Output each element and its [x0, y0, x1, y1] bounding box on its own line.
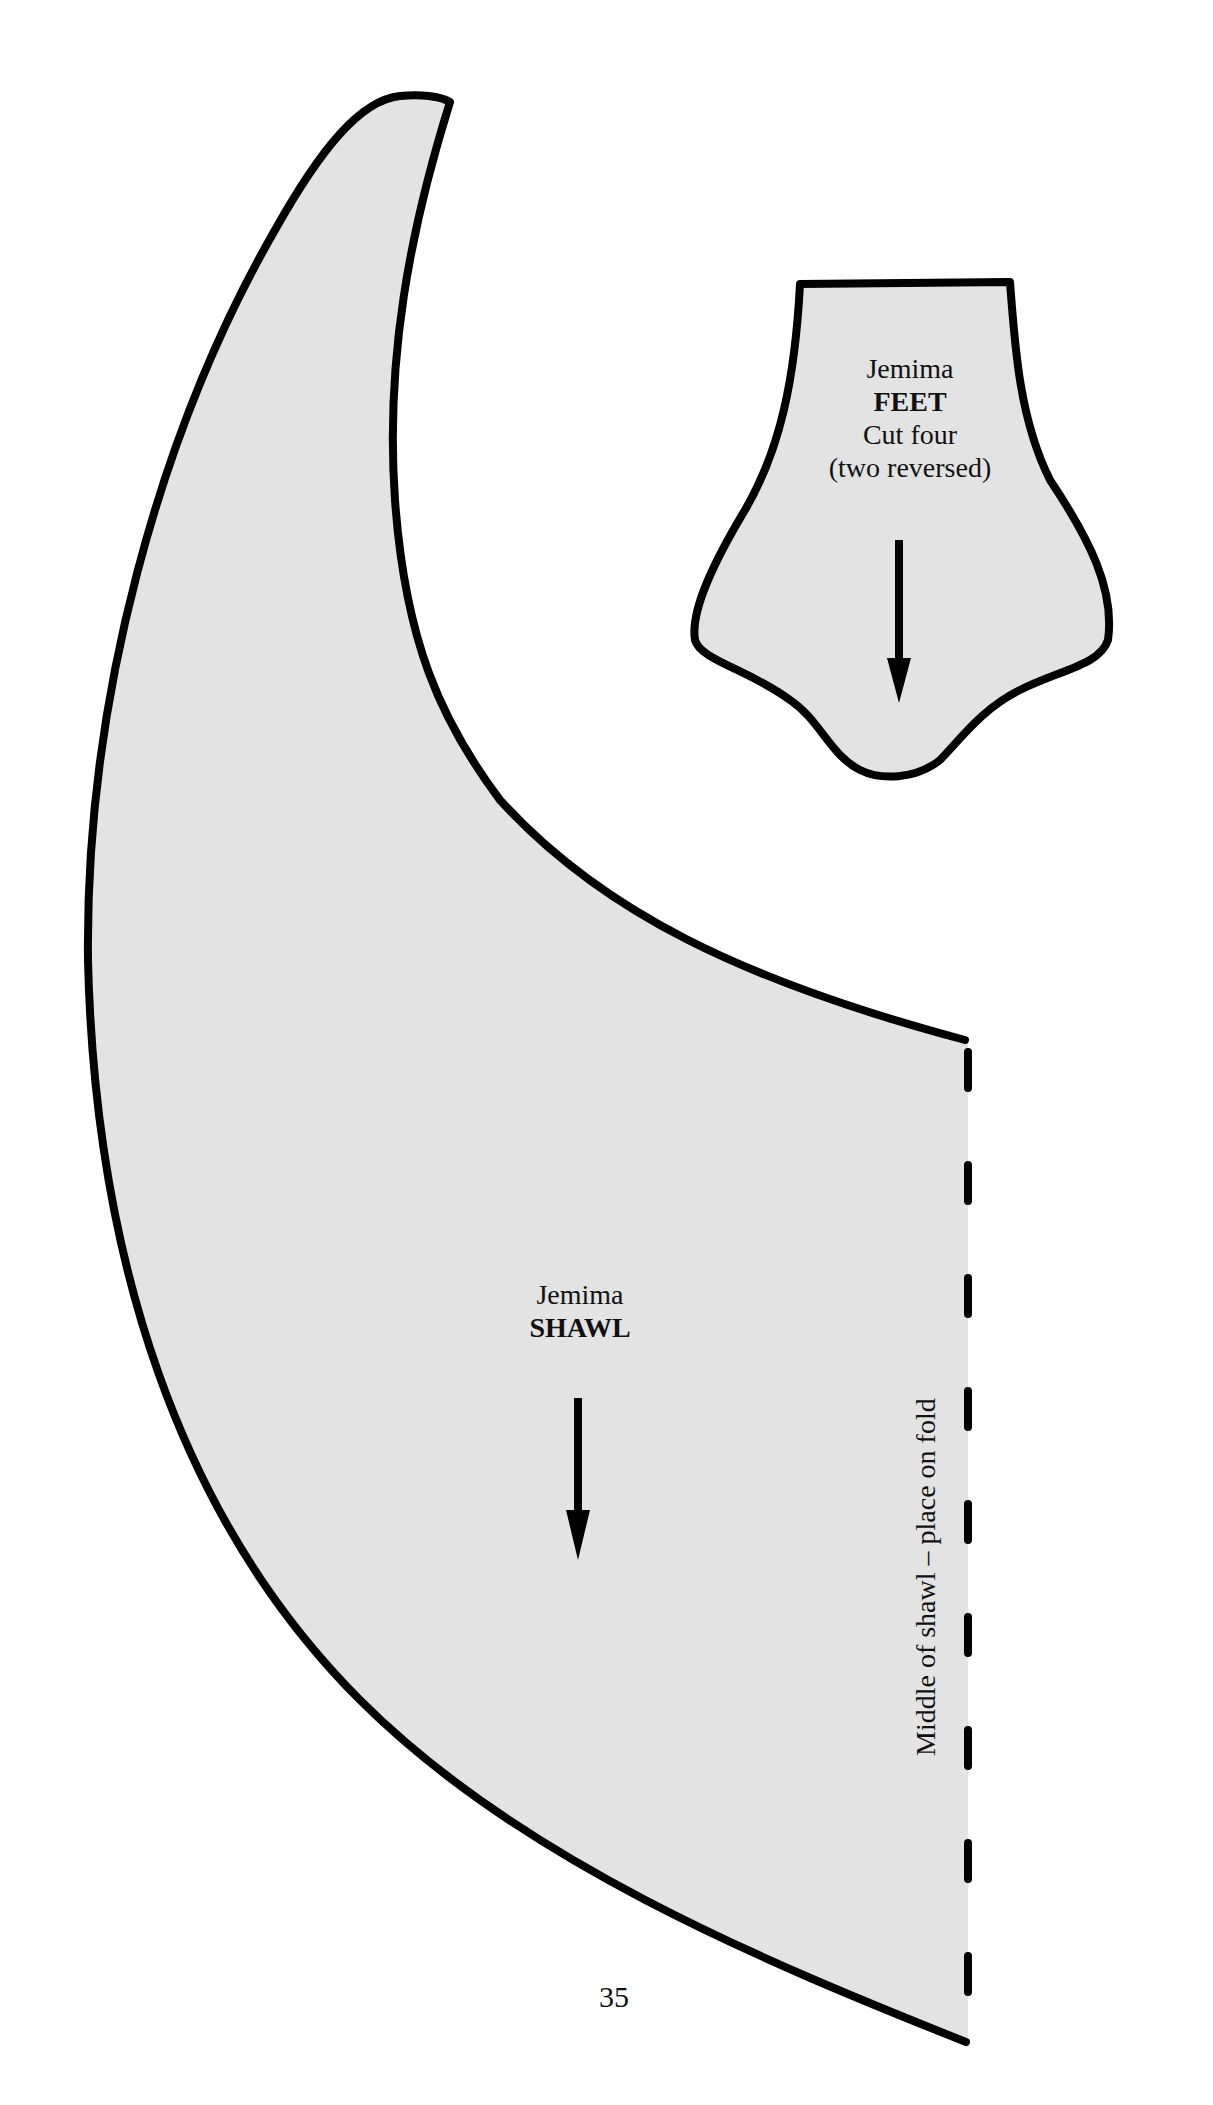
feet-piece-label: Jemima FEET Cut four (two reversed) — [760, 352, 1060, 484]
pattern-page: Jemima FEET Cut four (two reversed) Jemi… — [0, 0, 1213, 2105]
feet-cut-instruction: Cut four — [760, 418, 1060, 451]
feet-piece-title: FEET — [760, 385, 1060, 418]
shawl-piece-label: Jemima SHAWL — [480, 1278, 680, 1344]
shawl-name: Jemima — [480, 1278, 680, 1311]
shawl-piece-title: SHAWL — [480, 1311, 680, 1344]
page-number: 35 — [584, 1980, 644, 2014]
feet-cut-note: (two reversed) — [760, 451, 1060, 484]
pattern-pieces-drawing — [0, 0, 1213, 2105]
fold-instruction: Middle of shawl – place on fold — [910, 1398, 942, 1756]
feet-name: Jemima — [760, 352, 1060, 385]
